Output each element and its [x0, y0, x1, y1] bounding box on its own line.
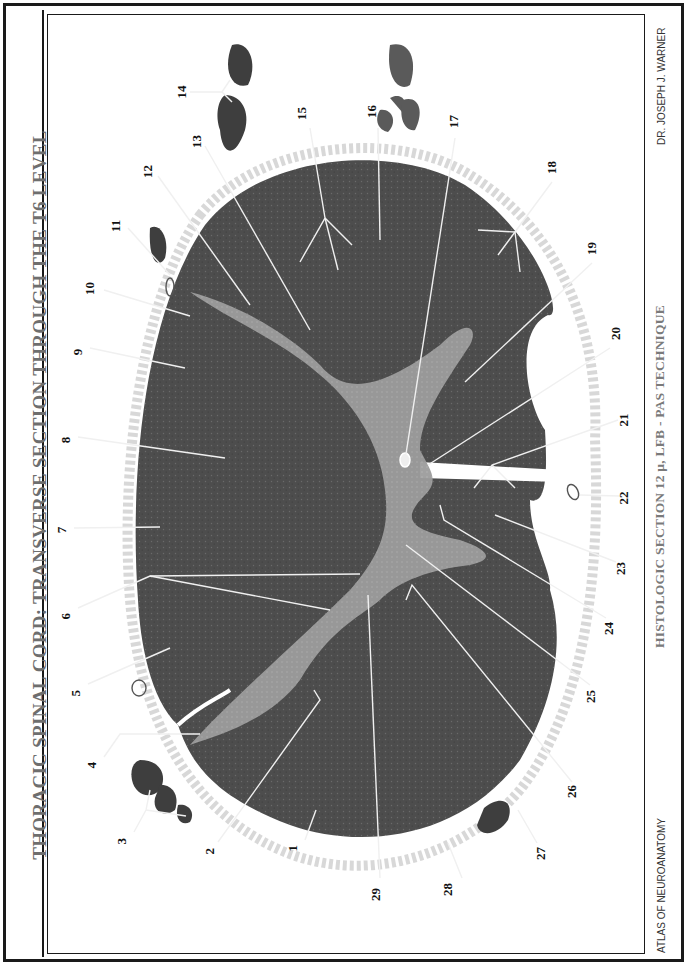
- label-24: 24: [601, 622, 616, 636]
- label-12: 12: [140, 165, 155, 178]
- label-14: 14: [174, 85, 189, 99]
- label-18: 18: [544, 161, 559, 175]
- label-25: 25: [583, 690, 598, 704]
- label-28: 28: [440, 883, 455, 897]
- label-1: 1: [285, 845, 300, 852]
- label-7: 7: [54, 526, 69, 533]
- spinal-cord-section: 1 2 3 4 5 6 7 8 9 10 11 12 13 14 15 16 1…: [0, 0, 689, 967]
- label-20: 20: [608, 327, 623, 340]
- label-9: 9: [70, 348, 85, 355]
- label-26: 26: [564, 785, 579, 799]
- label-15: 15: [294, 107, 309, 121]
- label-19: 19: [584, 242, 599, 256]
- label-6: 6: [58, 613, 73, 620]
- label-4: 4: [84, 762, 99, 769]
- ventral-rootlets: [377, 44, 419, 132]
- label-10: 10: [82, 282, 97, 295]
- label-3: 3: [114, 838, 129, 845]
- label-21: 21: [616, 414, 631, 427]
- central-canal: [400, 453, 410, 467]
- label-5: 5: [68, 690, 83, 697]
- label-29: 29: [368, 888, 383, 902]
- label-13: 13: [189, 135, 204, 149]
- label-23: 23: [613, 562, 628, 576]
- label-22: 22: [616, 492, 631, 505]
- label-8: 8: [58, 436, 73, 443]
- label-16: 16: [364, 105, 379, 119]
- label-27: 27: [533, 847, 548, 861]
- label-2: 2: [202, 848, 217, 855]
- label-11: 11: [108, 220, 123, 232]
- label-17: 17: [446, 115, 461, 129]
